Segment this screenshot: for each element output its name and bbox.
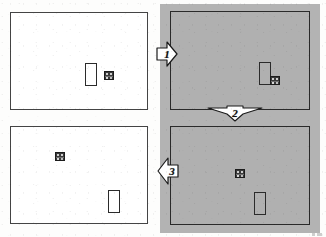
- small-square-icon[interactable]: [104, 71, 114, 80]
- figure-canvas: 1 2 3: [0, 0, 326, 237]
- arrow-3-connector[interactable]: 3: [156, 156, 180, 186]
- panel-top-right[interactable]: [170, 11, 310, 110]
- panel-bottom-right[interactable]: [170, 126, 310, 225]
- small-square-icon[interactable]: [235, 169, 245, 178]
- panel-top-left[interactable]: [10, 12, 148, 110]
- tall-rectangle[interactable]: [85, 63, 97, 86]
- arrow-1-label: 1: [155, 40, 183, 68]
- arrow-2-label: 2: [206, 104, 264, 124]
- arrow-3-label: 3: [156, 156, 184, 186]
- tall-rectangle[interactable]: [254, 192, 266, 215]
- arrow-1-connector[interactable]: 1: [155, 40, 179, 68]
- page-corner-mark: [312, 233, 322, 236]
- small-square-icon[interactable]: [270, 76, 280, 85]
- tall-rectangle[interactable]: [108, 190, 120, 213]
- arrow-2-connector[interactable]: 2: [206, 104, 264, 122]
- small-square-icon[interactable]: [55, 152, 65, 161]
- panel-bottom-left[interactable]: [10, 126, 148, 224]
